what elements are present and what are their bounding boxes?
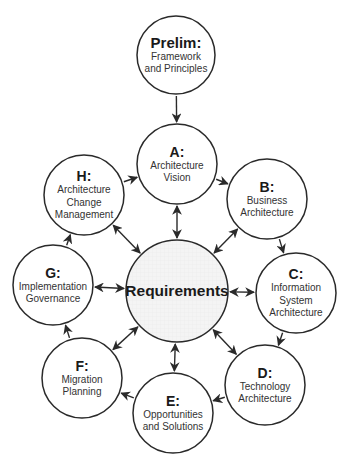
phase-node-prelim: Prelim:Frameworkand Principles <box>137 16 215 94</box>
phase-subtitle-line: Migration <box>61 374 102 387</box>
arrow-requirements-g <box>95 287 124 288</box>
phase-subtitle-line: Implementation <box>19 281 87 294</box>
phase-title: F: <box>75 358 88 374</box>
phase-title: E: <box>166 393 180 409</box>
phase-subtitle-line: Governance <box>26 293 80 306</box>
phase-subtitle-line: Management <box>55 209 113 222</box>
phase-subtitle-line: Change <box>66 197 101 210</box>
arrow-requirements-e <box>174 344 175 371</box>
arrow-f-to-g <box>66 325 70 338</box>
phase-title: G: <box>45 265 61 281</box>
phase-subtitle-line: and Solutions <box>143 421 204 434</box>
arrow-b-to-c <box>279 239 283 253</box>
phase-subtitle-line: and Principles <box>145 63 208 76</box>
arrow-h-to-a <box>124 177 137 181</box>
phase-title: Prelim: <box>151 35 202 51</box>
phase-subtitle-line: Information <box>271 282 321 295</box>
phase-title: A: <box>170 144 185 160</box>
phase-subtitle-line: Architecture <box>57 184 110 197</box>
phase-node-a: A:ArchitectureVision <box>137 124 217 204</box>
phase-subtitle-line: Vision <box>163 172 190 185</box>
phase-node-b: B:BusinessArchitecture <box>227 159 307 239</box>
phase-subtitle-line: Architecture <box>150 160 203 173</box>
phase-title: H: <box>77 168 92 184</box>
arrow-g-to-h <box>67 235 71 246</box>
arrow-e-to-f <box>121 393 134 398</box>
requirements-node: Requirements <box>126 240 228 342</box>
phase-subtitle-line: Business <box>247 195 288 208</box>
phase-node-f: F:MigrationPlanning <box>42 338 122 418</box>
phase-node-g: G:ImplementationGovernance <box>13 245 93 325</box>
phase-subtitle-line: Planning <box>63 386 102 399</box>
phase-subtitle-line: Opportunities <box>143 409 202 422</box>
phase-subtitle-line: Architecture <box>240 207 293 220</box>
arrow-d-to-e <box>213 397 225 401</box>
phase-node-e: E:Opportunitiesand Solutions <box>133 373 213 453</box>
phase-node-c: C:InformationSystemArchitecture <box>256 253 336 333</box>
phase-subtitle-line: Architecture <box>238 393 291 406</box>
phase-node-d: D:TechnologyArchitecture <box>225 345 305 425</box>
phase-subtitle-line: Technology <box>240 381 291 394</box>
phase-subtitle-line: Framework <box>151 51 201 64</box>
phase-title: C: <box>289 266 304 282</box>
phase-subtitle-line: System <box>279 295 312 308</box>
phase-title: B: <box>260 179 275 195</box>
phase-node-h: H:ArchitectureChangeManagement <box>44 155 124 235</box>
requirements-title: Requirements <box>125 283 228 299</box>
phase-title: D: <box>258 365 273 381</box>
arrow-c-to-d <box>278 333 282 345</box>
phase-subtitle-line: Architecture <box>269 307 322 320</box>
